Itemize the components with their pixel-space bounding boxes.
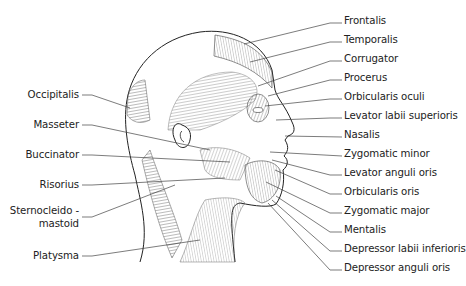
label-nasalis: Nasalis — [344, 129, 380, 141]
sternocleidomastoid-muscle — [142, 150, 182, 258]
label-sternocleidomastoid-line2: mastoid — [39, 218, 79, 230]
orbicularis-oris-muscle — [245, 161, 280, 203]
label-corrugator: Corrugator — [344, 53, 398, 65]
label-masseter: Masseter — [33, 119, 79, 131]
label-orbicularis-oris: Orbicularis oris — [344, 186, 419, 198]
label-temporalis: Temporalis — [344, 34, 398, 46]
label-buccinator: Buccinator — [25, 149, 79, 161]
label-platysma: Platysma — [33, 250, 79, 262]
temporalis-muscle — [168, 72, 257, 130]
label-depressor-anguli-oris: Depressor anguli oris — [344, 262, 450, 274]
label-depressor-labii-inferioris: Depressor labii inferioris — [344, 243, 466, 255]
label-occipitalis: Occipitalis — [28, 89, 79, 101]
label-orbicularis-oculi: Orbicularis oculi — [344, 91, 424, 103]
label-zygomatic-minor: Zygomatic minor — [344, 148, 430, 160]
label-levator-labii-superioris: Levator labii superioris — [344, 110, 458, 122]
label-levator-anguli-oris: Levator anguli oris — [344, 167, 437, 179]
label-mentalis: Mentalis — [344, 224, 386, 236]
cheek-muscles — [200, 148, 250, 180]
label-sternocleidomastoid-line1: Sternocleido - — [10, 205, 79, 217]
label-frontalis: Frontalis — [344, 15, 386, 27]
platysma-muscle — [180, 198, 245, 262]
label-zygomatic-major: Zygomatic major — [344, 205, 429, 217]
label-risorius: Risorius — [40, 179, 79, 191]
label-procerus: Procerus — [344, 72, 387, 84]
leader-lines-right — [244, 23, 342, 270]
